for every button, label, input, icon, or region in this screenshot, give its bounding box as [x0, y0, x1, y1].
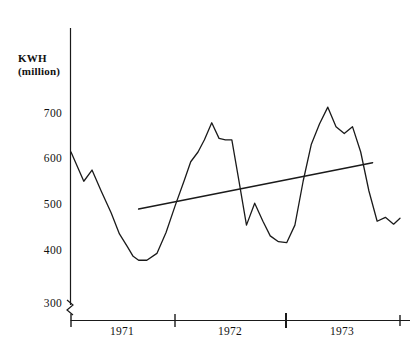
data-series-line: [71, 107, 400, 260]
plot-area: [0, 0, 416, 348]
axis-break-icon: [67, 300, 73, 315]
trend-series-line: [139, 163, 373, 209]
chart-container: KWH(million) 700 600 500 400 300 1971 19…: [0, 0, 416, 348]
